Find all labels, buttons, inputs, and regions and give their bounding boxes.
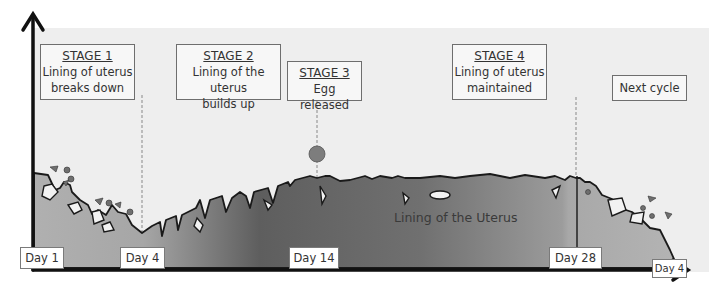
day-1-label: Day 1 — [20, 247, 64, 269]
stage-4-title: STAGE 4 — [453, 48, 546, 64]
stage-1-box: STAGE 1 Lining of uterus breaks down — [40, 44, 135, 100]
stage-4-line2: maintained — [467, 81, 532, 95]
stage-1-line1: Lining of uterus — [43, 65, 133, 79]
next-cycle-label: Next cycle — [619, 81, 679, 95]
stage-2-line1: Lining of the uterus — [193, 65, 265, 95]
egg-icon — [309, 146, 325, 162]
stage-3-title: STAGE 3 — [288, 65, 361, 81]
menstrual-cycle-diagram: STAGE 1 Lining of uterus breaks down STA… — [0, 0, 709, 289]
day-14-label: Day 14 — [289, 247, 339, 269]
stage-2-title: STAGE 2 — [177, 48, 280, 64]
stage-1-line2: breaks down — [51, 81, 124, 95]
next-day-4-label: Day 4 — [652, 259, 687, 278]
stage-2-box: STAGE 2 Lining of the uterus builds up — [176, 44, 281, 100]
next-cycle-box: Next cycle — [612, 75, 687, 101]
day-4-label: Day 4 — [120, 247, 165, 269]
stage-2-line2: builds up — [202, 97, 255, 111]
stage-3-box: STAGE 3 Egg released — [287, 61, 362, 101]
stage-3-line1: Egg released — [300, 82, 349, 112]
stage-4-box: STAGE 4 Lining of uterus maintained — [452, 44, 547, 100]
stage-1-title: STAGE 1 — [41, 48, 134, 64]
day-28-label: Day 28 — [549, 247, 602, 269]
lining-label: Lining of the Uterus — [394, 210, 518, 225]
stage-4-line1: Lining of uterus — [455, 65, 545, 79]
